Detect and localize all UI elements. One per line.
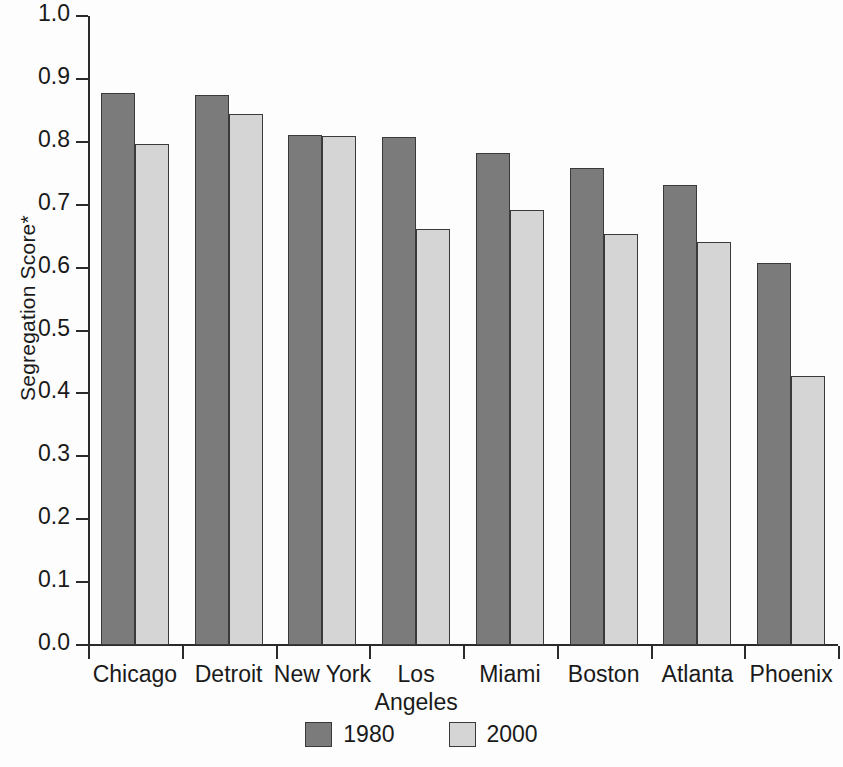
bar-chicago-2000 <box>135 144 169 645</box>
bar-detroit-1980 <box>195 95 229 645</box>
x-axis-label-line: Phoenix <box>734 660 843 688</box>
y-axis-tick <box>76 392 88 394</box>
y-axis-tick <box>76 78 88 80</box>
y-axis-tick-label: 1.0 <box>6 2 70 25</box>
y-axis-tick-label: 0.7 <box>6 191 70 214</box>
y-axis-tick-label: 0.8 <box>6 128 70 151</box>
y-axis-tick <box>76 204 88 206</box>
y-axis-tick-label: 0.2 <box>6 505 70 528</box>
x-axis-tick <box>182 646 184 659</box>
y-axis-tick <box>76 581 88 583</box>
x-axis-tick <box>88 646 90 659</box>
legend-label: 2000 <box>487 723 538 746</box>
bar-phoenix-2000 <box>791 376 825 645</box>
x-axis-tick <box>744 646 746 659</box>
y-axis-tick-label: 0.0 <box>6 631 70 654</box>
y-axis-tick <box>76 15 88 17</box>
dark-gray-swatch <box>305 722 332 747</box>
bar-miami-2000 <box>510 210 544 645</box>
y-axis-tick <box>76 518 88 520</box>
legend-label: 1980 <box>343 723 394 746</box>
bar-phoenix-1980 <box>757 263 791 645</box>
y-axis-tick <box>76 455 88 457</box>
y-axis-tick-label: 0.6 <box>6 254 70 277</box>
segregation-score-bar-chart: Segregation Score* 1.00.90.80.70.60.50.4… <box>0 0 843 767</box>
x-axis-tick <box>557 646 559 659</box>
x-axis-tick <box>276 646 278 659</box>
x-axis-labels: ChicagoDetroitNew YorkLosAngelesMiamiBos… <box>88 660 838 720</box>
y-axis-tick-label: 0.1 <box>6 568 70 591</box>
chart-legend: 19802000 <box>0 722 843 747</box>
legend-item-1980[interactable]: 1980 <box>305 722 394 747</box>
bar-los-angeles-2000 <box>416 229 450 645</box>
legend-item-2000[interactable]: 2000 <box>449 722 538 747</box>
y-axis-tick-label: 0.4 <box>6 379 70 402</box>
bar-los-angeles-1980 <box>382 137 416 645</box>
x-axis-label-line: Angeles <box>359 688 473 716</box>
light-gray-swatch <box>449 722 476 747</box>
bar-new-york-1980 <box>288 135 322 645</box>
x-axis-tick <box>369 646 371 659</box>
bar-new-york-2000 <box>322 136 356 645</box>
x-axis-tick <box>651 646 653 659</box>
y-axis-tick <box>76 267 88 269</box>
bars-layer <box>88 16 838 645</box>
y-axis-tick <box>76 141 88 143</box>
y-axis-tick <box>76 330 88 332</box>
bar-atlanta-2000 <box>697 242 731 645</box>
x-axis-tick <box>838 646 840 659</box>
y-axis-tick-label: 0.3 <box>6 442 70 465</box>
bar-chicago-1980 <box>101 93 135 645</box>
bar-atlanta-1980 <box>663 185 697 645</box>
x-axis-tick <box>463 646 465 659</box>
y-axis-tick-label: 0.5 <box>6 317 70 340</box>
bar-boston-2000 <box>604 234 638 645</box>
y-axis-tick <box>76 644 88 646</box>
bar-detroit-2000 <box>229 114 263 646</box>
x-axis-label-phoenix: Phoenix <box>734 660 843 688</box>
y-axis-tick-label: 0.9 <box>6 65 70 88</box>
bar-miami-1980 <box>476 153 510 645</box>
bar-boston-1980 <box>570 168 604 645</box>
